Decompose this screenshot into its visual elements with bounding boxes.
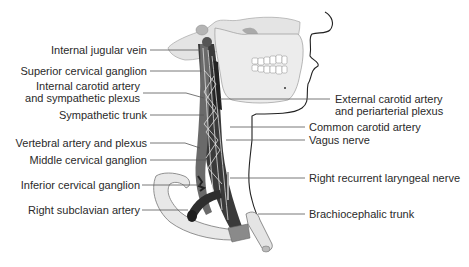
label-sympathetic-trunk: Sympathetic trunk <box>59 109 147 121</box>
label-internal-carotid-artery-line1: Internal carotid artery <box>36 80 140 92</box>
anatomy-illustration <box>0 0 469 267</box>
label-internal-carotid-artery-line2: and sympathetic plexus <box>25 92 140 104</box>
label-external-carotid-artery-line1: External carotid artery <box>335 93 443 105</box>
label-middle-cervical-ganglion: Middle cervical ganglion <box>30 154 147 166</box>
label-inferior-cervical-ganglion: Inferior cervical ganglion <box>21 179 140 191</box>
mandible-icon <box>215 28 303 103</box>
label-internal-jugular-vein: Internal jugular vein <box>51 44 147 56</box>
label-vagus-nerve: Vagus nerve <box>309 134 370 146</box>
label-right-subclavian-artery: Right subclavian artery <box>28 204 140 216</box>
label-right-recurrent-laryngeal-nerve: Right recurrent laryngeal nerve <box>309 172 460 184</box>
label-superior-cervical-ganglion: Superior cervical ganglion <box>20 65 147 77</box>
label-brachiocephalic-trunk: Brachiocephalic trunk <box>309 208 414 220</box>
label-external-carotid-artery-line2: and periarterial plexus <box>335 105 443 117</box>
leader-lines-right <box>220 99 330 214</box>
brachiocephalic-trunk-icon <box>246 212 272 252</box>
leader-lines-left <box>142 50 206 210</box>
label-vertebral-artery-and-plexus: Vertebral artery and plexus <box>16 137 147 149</box>
anatomy-figure: Internal jugular vein Superior cervical … <box>0 0 469 267</box>
label-common-carotid-artery: Common carotid artery <box>309 121 421 133</box>
